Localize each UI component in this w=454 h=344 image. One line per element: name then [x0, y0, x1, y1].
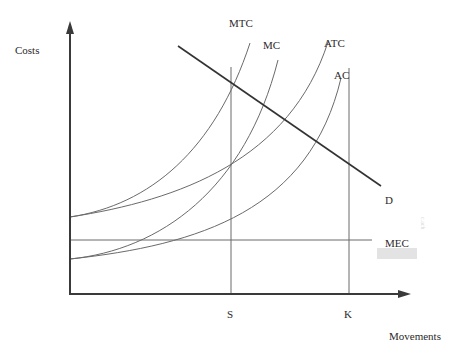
cost-diagram: [0, 0, 454, 344]
ac-label: AC: [334, 70, 349, 81]
mc-curve: [70, 60, 278, 259]
atc-curve: [70, 42, 328, 217]
ac-curve: [70, 78, 341, 259]
x-tick-k: K: [344, 309, 352, 320]
x-axis-label: Movements: [389, 331, 441, 342]
mtc-label: MTC: [229, 18, 253, 29]
x-tick-s: S: [227, 309, 233, 320]
mtc-curve: [70, 43, 250, 217]
x-axis-arrow-icon: [398, 290, 411, 298]
y-axis-label: Costs: [15, 45, 39, 56]
demand-line: [178, 46, 381, 186]
atc-label: ATC: [324, 38, 345, 49]
mc-label: MC: [263, 40, 280, 51]
watermark-text: c.ach: [420, 217, 426, 230]
watermark-box: [377, 248, 417, 259]
demand-label: D: [385, 195, 393, 206]
y-axis-arrow-icon: [66, 21, 74, 34]
